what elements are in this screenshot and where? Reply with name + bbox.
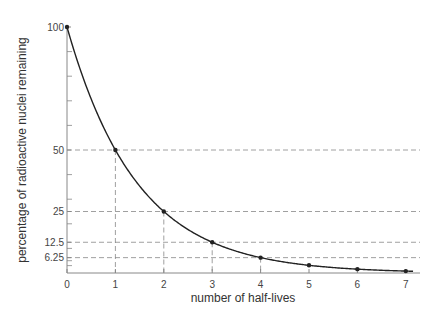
- x-tick-label: 6: [355, 279, 361, 290]
- data-point: [307, 263, 311, 267]
- x-tick-label: 2: [161, 279, 167, 290]
- data-points: [65, 25, 408, 273]
- axes: [67, 25, 420, 273]
- y-axis-ticks: 100502512.56.25: [45, 22, 72, 266]
- y-axis-label: percentage of radioactive nuclei remaini…: [15, 37, 29, 262]
- data-point: [210, 240, 214, 244]
- x-tick-label: 4: [258, 279, 264, 290]
- x-tick-label: 5: [306, 279, 312, 290]
- y-tick-label: 12.5: [45, 237, 65, 248]
- data-point: [258, 255, 262, 259]
- decay-chart: 100502512.56.25 01234567 number of half-…: [0, 0, 436, 323]
- data-point: [113, 148, 117, 152]
- x-tick-label: 1: [113, 279, 119, 290]
- y-tick-label: 6.25: [45, 252, 65, 263]
- decay-curve: [67, 27, 413, 271]
- x-tick-label: 0: [64, 279, 70, 290]
- data-point: [162, 209, 166, 213]
- x-axis-label: number of half-lives: [191, 291, 296, 305]
- x-tick-label: 7: [403, 279, 409, 290]
- x-tick-label: 3: [209, 279, 215, 290]
- y-tick-label: 25: [53, 206, 65, 217]
- y-tick-label: 50: [53, 145, 65, 156]
- dashed-guide-lines: [67, 150, 420, 273]
- x-axis-ticks: 01234567: [64, 269, 409, 290]
- data-point: [404, 269, 408, 273]
- data-point: [65, 25, 69, 29]
- data-point: [355, 267, 359, 271]
- y-tick-label: 100: [47, 22, 64, 33]
